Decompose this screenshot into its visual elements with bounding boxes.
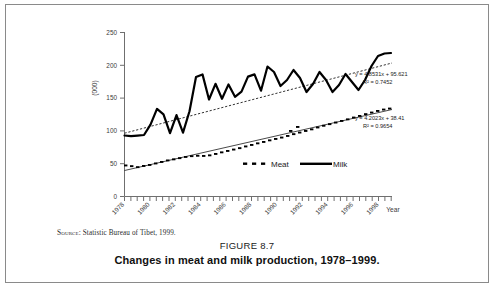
y-tick-label: 100 xyxy=(106,127,117,134)
source-note: Source: Statistic Bureau of Tibet, 1999. xyxy=(57,228,176,237)
y-tick-label: 250 xyxy=(106,29,117,36)
y-axis-title: (000) xyxy=(91,80,99,95)
x-axis-tick-labels: 1978 1980 1982 1984 1986 1988 1990 1992 … xyxy=(110,200,380,215)
x-tick-label: 1996 xyxy=(339,200,354,215)
x-tick-label: 1990 xyxy=(263,200,278,215)
figure-page: 0 50 100 150 200 250 (000) xyxy=(0,0,494,287)
milk-equation-line: y = 4.8531x + 95.621 xyxy=(355,71,408,77)
x-tick-label: 1984 xyxy=(187,200,202,215)
milk-trendline xyxy=(125,63,393,133)
x-tick-label: 1992 xyxy=(288,200,303,215)
x-tick-label: 1998 xyxy=(365,200,380,215)
source-prefix: Source: xyxy=(57,228,81,237)
x-tick-label: 1982 xyxy=(161,200,176,215)
y-tick-label: 50 xyxy=(110,160,118,167)
legend-label-milk: Milk xyxy=(333,160,348,169)
figure-caption: Changes in meat and milk production, 197… xyxy=(0,254,494,266)
y-tick-label: 200 xyxy=(106,62,117,69)
x-axis-title: Year xyxy=(386,206,400,213)
milk-r2-line: R² = 0.7452 xyxy=(363,79,392,85)
chart-legend: Meat Milk xyxy=(243,160,348,169)
y-tick-label: 150 xyxy=(106,94,117,101)
figure-number: FIGURE 8.7 xyxy=(0,240,494,251)
meat-r2-line: R² = 0.9654 xyxy=(363,123,392,129)
milk-equation-annotation: y = 4.8531x + 95.621 R² = 0.7452 xyxy=(355,71,408,85)
y-axis-tick-labels: 0 50 100 150 200 250 xyxy=(106,29,117,200)
x-tick-label: 1994 xyxy=(314,200,329,215)
x-tick-label: 1986 xyxy=(212,200,227,215)
x-axis-ticks xyxy=(125,197,392,202)
source-text: Statistic Bureau of Tibet, 1999. xyxy=(83,229,176,237)
legend-swatch-meat xyxy=(243,163,265,165)
x-tick-label: 1978 xyxy=(110,200,125,215)
y-axis-ticks xyxy=(120,33,125,197)
meat-equation-line: y = 4.2023x + 38.41 xyxy=(355,115,404,121)
meat-equation-annotation: y = 4.2023x + 38.41 R² = 0.9654 xyxy=(355,115,404,129)
milk-series-line xyxy=(125,53,392,136)
figure-area: 0 50 100 150 200 250 (000) xyxy=(0,0,494,287)
legend-label-meat: Meat xyxy=(271,160,290,169)
x-tick-label: 1980 xyxy=(136,200,151,215)
y-tick-label: 0 xyxy=(113,193,117,200)
x-tick-label: 1988 xyxy=(238,200,253,215)
